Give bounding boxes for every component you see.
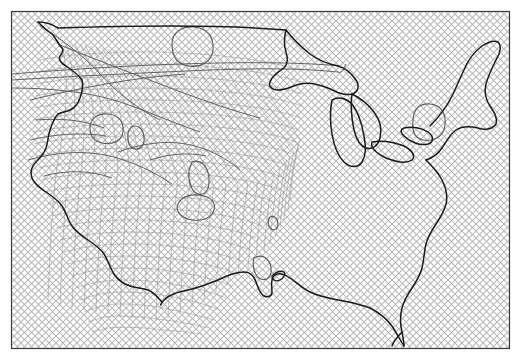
contour-map-figure	[0, 0, 522, 364]
map-canvas	[0, 0, 522, 364]
